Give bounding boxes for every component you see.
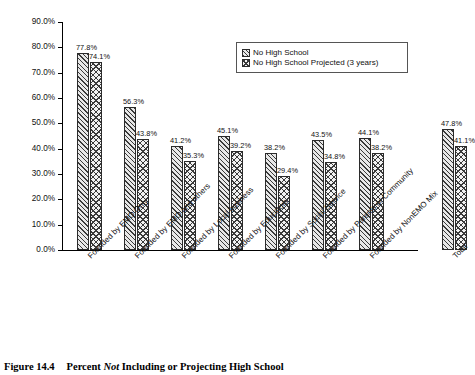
caption-text-italic: Not [103,361,119,372]
bar-value-label: 38.2% [264,144,285,152]
y-axis-tick-label: 10.0% [32,221,55,229]
bar-value-label: 39.2% [230,142,251,150]
bar-value-label: 41.1% [454,137,475,145]
bar-value-label: 74.1% [89,53,110,61]
bar[interactable] [442,129,454,250]
legend-item: No High School Projected (3 years) [242,58,403,67]
bar[interactable] [77,53,89,250]
bar[interactable] [137,139,149,250]
caption-text-before: Percent [67,361,104,372]
bar-value-label: 34.8% [324,153,345,161]
bar-value-label: 35.3% [183,152,204,160]
legend-swatch-icon [242,59,250,67]
bar-value-label: 56.3% [123,98,144,106]
bar[interactable] [359,138,371,250]
bar[interactable] [171,146,183,250]
bar[interactable] [265,153,277,250]
y-axis-tick-label: 40.0% [32,145,55,153]
y-axis-tick-label: 70.0% [32,69,55,77]
chart-legend: No High School No High School Projected … [236,42,408,73]
caption-text-after: Including or Projecting High School [119,361,283,372]
legend-swatch-icon [242,49,250,57]
bar[interactable] [312,140,324,250]
bar-value-label: 43.8% [136,130,157,138]
y-axis-tick-label: 30.0% [32,170,55,178]
bar-value-label: 47.8% [441,120,462,128]
bar-group: 47.8%41.1% [442,22,468,250]
bar-value-label: 45.1% [217,127,238,135]
y-axis-tick-label: 60.0% [32,94,55,102]
y-axis-tick-label: 20.0% [32,195,55,203]
bar-value-label: 38.2% [371,144,392,152]
figure-number: Figure 14.4 [4,361,55,372]
y-axis-tick-label: 90.0% [32,18,55,26]
bar[interactable] [218,136,230,250]
legend-item-label: No High School Projected (3 years) [253,58,378,67]
bar-value-label: 41.2% [170,137,191,145]
bar-value-label: 29.4% [277,167,298,175]
bar[interactable] [455,146,467,250]
y-axis-tick-label: 50.0% [32,119,55,127]
y-axis-tick-label: 80.0% [32,43,55,51]
bar-value-label: 43.5% [311,131,332,139]
bar-value-label: 77.8% [76,44,97,52]
legend-item-label: No High School [253,48,309,57]
y-axis-tick-label: 0.0% [36,246,55,254]
bar-value-label: 44.1% [358,129,379,137]
figure-caption: Figure 14.4Percent Not Including or Proj… [4,361,284,373]
legend-item: No High School [242,48,403,57]
bar[interactable] [90,62,102,250]
bar[interactable] [124,107,136,250]
bar-group: 77.8%74.1% [77,22,103,250]
